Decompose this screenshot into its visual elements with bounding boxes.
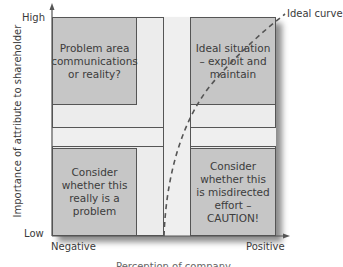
ideal-curve-label: Ideal curve [287,8,343,19]
y-axis-arrow-icon [50,3,55,236]
x-axis-title-partial: Perception of company [116,261,231,267]
x-axis-arrow-icon [52,234,290,239]
x-negative-label: Negative [51,241,96,252]
ideal-curve [164,14,285,236]
y-axis-title: Importance of attribute to shareholder [12,48,23,218]
y-low-label: Low [24,228,44,239]
y-high-label: High [22,12,45,23]
x-positive-label: Positive [246,241,285,252]
